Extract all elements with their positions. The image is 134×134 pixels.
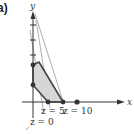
- feasible-region: [33, 62, 63, 102]
- x-axis-arrow-icon: [117, 100, 125, 105]
- z10-label: z = 10: [63, 106, 93, 116]
- point: [46, 100, 51, 105]
- y-axis-label: y: [29, 1, 36, 11]
- z5-label: z = 5: [41, 106, 65, 116]
- feasible-region-diagram: y x z = 5 z = 10 z = 0: [0, 0, 134, 134]
- z0-label: z = 0: [30, 117, 54, 127]
- point: [74, 99, 79, 104]
- point: [61, 100, 66, 105]
- point: [31, 83, 36, 88]
- y-axis-arrow-icon: [31, 11, 36, 19]
- x-axis-label: x: [127, 97, 132, 107]
- pointer-mark: [26, 127, 29, 130]
- point: [31, 63, 36, 68]
